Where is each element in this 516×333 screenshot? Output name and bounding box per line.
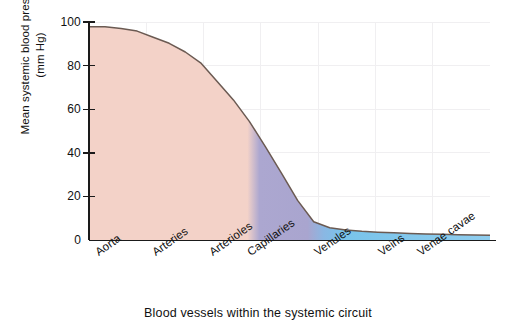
x-axis-title: Blood vessels within the systemic circui… [0,306,516,320]
plot-area [0,0,516,333]
pressure-area-fill [89,20,490,241]
blood-pressure-chart-figure: Mean systemic blood pressure (mm Hg) 100… [0,0,516,333]
